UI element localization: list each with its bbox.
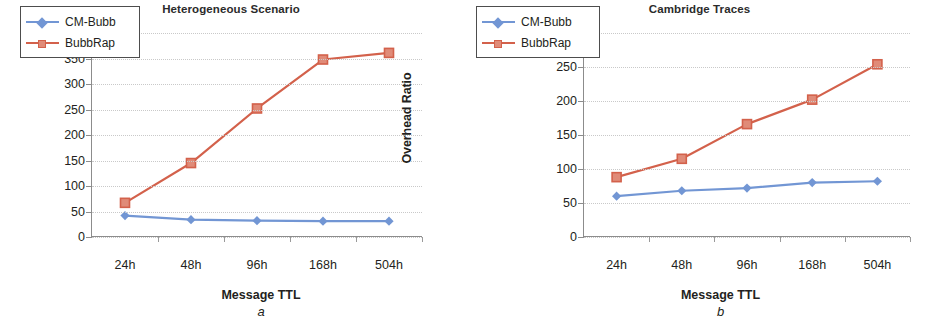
x-tick-mark	[422, 237, 423, 242]
y-axis-title-b: Overhead Ratio	[400, 48, 418, 188]
gridline-y	[584, 135, 910, 136]
y-tick-mark	[578, 135, 584, 136]
y-tick-label: 250	[556, 60, 577, 74]
legend-label-cm-bubb-b: CM-Bubb	[521, 15, 572, 29]
plot-area-a: 05010015020025030035040024h48h96h168h504…	[92, 33, 422, 237]
chart-panel-b: Cambridge Traces Overhead Ratio 05010015…	[462, 0, 925, 326]
x-tick-mark	[714, 237, 715, 242]
data-point-marker	[384, 217, 393, 226]
y-tick-label: 0	[78, 230, 85, 244]
y-tick-mark	[578, 169, 584, 170]
legend-swatch-bubbrap-a	[26, 37, 59, 49]
x-tick-label: 48h	[181, 258, 202, 272]
legend-swatch-bubbrap-b	[482, 37, 515, 49]
gridline-y	[92, 186, 422, 187]
x-tick-mark	[910, 237, 911, 242]
x-axis-title-b: Message TTL	[489, 288, 925, 302]
gridline-y	[92, 237, 422, 238]
x-tick-mark	[290, 237, 291, 242]
x-axis-title-a: Message TTL	[30, 288, 492, 302]
data-point-marker	[873, 177, 882, 186]
x-tick-label: 504h	[375, 258, 403, 272]
y-tick-label: 50	[71, 205, 85, 219]
x-tick-mark	[356, 237, 357, 242]
data-point-marker	[252, 216, 261, 225]
x-tick-mark	[649, 237, 650, 242]
gridline-y	[92, 59, 422, 60]
legend-label-bubbrap-b: BubbRap	[521, 36, 571, 50]
legend-item-cm-bubb-b: CM-Bubb	[482, 11, 591, 32]
y-tick-label: 250	[64, 103, 85, 117]
x-tick-label: 168h	[798, 258, 826, 272]
data-point-marker	[319, 55, 328, 64]
x-tick-label: 168h	[309, 258, 337, 272]
legend-label-cm-bubb-a: CM-Bubb	[65, 15, 116, 29]
legend-swatch-cm-bubb-a	[26, 16, 59, 28]
data-point-marker	[186, 215, 195, 224]
gridline-y	[584, 67, 910, 68]
x-tick-label: 48h	[671, 258, 692, 272]
gridline-y	[92, 135, 422, 136]
legend-item-bubbrap-a: BubbRap	[26, 32, 131, 53]
legend-item-cm-bubb-a: CM-Bubb	[26, 11, 131, 32]
data-point-marker	[677, 154, 686, 163]
data-point-marker	[385, 48, 394, 57]
y-tick-label: 300	[64, 77, 85, 91]
gridline-y	[92, 161, 422, 162]
y-tick-mark	[86, 212, 92, 213]
y-tick-mark	[578, 67, 584, 68]
data-point-marker	[677, 186, 686, 195]
gridline-y	[92, 110, 422, 111]
panel-caption-b: b	[489, 304, 925, 319]
y-tick-label: 0	[570, 230, 577, 244]
x-tick-label: 96h	[737, 258, 758, 272]
legend-item-bubbrap-b: BubbRap	[482, 32, 591, 53]
y-tick-mark	[86, 161, 92, 162]
y-tick-mark	[86, 84, 92, 85]
data-point-marker	[253, 104, 262, 113]
gridline-y	[92, 33, 422, 34]
gridline-y	[92, 212, 422, 213]
gridline-y	[92, 84, 422, 85]
y-tick-label: 50	[563, 196, 577, 210]
y-tick-label: 150	[64, 154, 85, 168]
y-tick-label: 100	[64, 179, 85, 193]
chart-panel-a: Heterogeneous Scenario Overhead Ratio 05…	[0, 0, 462, 326]
x-tick-label: 504h	[863, 258, 891, 272]
y-tick-mark	[578, 101, 584, 102]
data-point-marker	[808, 95, 817, 104]
gridline-y	[584, 101, 910, 102]
x-tick-mark	[224, 237, 225, 242]
y-tick-mark	[578, 203, 584, 204]
y-tick-label: 100	[556, 162, 577, 176]
x-tick-mark	[158, 237, 159, 242]
y-tick-mark	[86, 110, 92, 111]
x-tick-mark	[845, 237, 846, 242]
y-tick-label: 150	[556, 128, 577, 142]
y-tick-mark	[86, 59, 92, 60]
gridline-y	[584, 237, 910, 238]
legend-swatch-cm-bubb-b	[482, 16, 515, 28]
y-tick-mark	[86, 237, 92, 238]
data-point-marker	[612, 173, 621, 182]
y-tick-mark	[86, 135, 92, 136]
y-tick-label: 200	[556, 94, 577, 108]
y-tick-mark	[578, 237, 584, 238]
figure-two-panel-line-charts: Heterogeneous Scenario Overhead Ratio 05…	[0, 0, 925, 326]
gridline-y	[584, 169, 910, 170]
data-point-marker	[121, 198, 130, 207]
legend-label-bubbrap-a: BubbRap	[65, 36, 115, 50]
y-tick-label: 200	[64, 128, 85, 142]
gridline-y	[584, 203, 910, 204]
x-tick-label: 24h	[115, 258, 136, 272]
data-point-marker	[318, 217, 327, 226]
legend-a: CM-Bubb BubbRap	[20, 6, 140, 58]
data-point-marker	[808, 178, 817, 187]
gridline-y	[584, 33, 910, 34]
plot-area-b: 05010015020025030024h48h96h168h504h	[584, 33, 910, 237]
data-point-marker	[743, 120, 752, 129]
panel-caption-a: a	[30, 304, 492, 319]
legend-b: CM-Bubb BubbRap	[476, 6, 600, 58]
data-point-marker	[612, 192, 621, 201]
y-tick-mark	[86, 186, 92, 187]
